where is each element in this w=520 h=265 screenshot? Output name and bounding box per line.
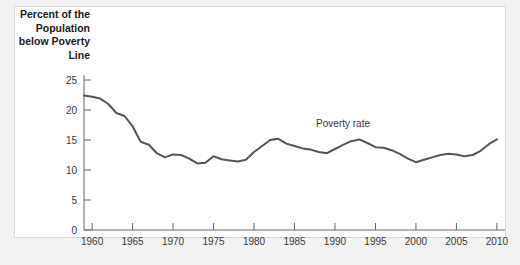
- x-tick-label: 2010: [486, 236, 509, 247]
- data-series: [84, 96, 497, 164]
- plot-area: 0510152025 19601965197019751980198519901…: [0, 0, 520, 265]
- y-tick-label: 25: [66, 75, 78, 86]
- x-tick-label: 1985: [283, 236, 306, 247]
- series-line: [84, 96, 497, 164]
- x-tick-label: 2000: [405, 236, 428, 247]
- x-tick-label: 1970: [162, 236, 185, 247]
- chart-annotations: Poverty rate: [316, 118, 370, 129]
- y-tick-label: 10: [66, 165, 78, 176]
- x-axis: 1960196519701975198019851990199520002005…: [81, 223, 508, 247]
- x-tick-label: 1965: [121, 236, 144, 247]
- y-tick-label: 15: [66, 135, 78, 146]
- y-axis: 0510152025: [66, 75, 91, 236]
- x-tick-label: 1975: [202, 236, 225, 247]
- line-chart-svg: 0510152025 19601965197019751980198519901…: [0, 0, 520, 265]
- y-tick-label: 20: [66, 105, 78, 116]
- poverty-rate-chart-figure: Percent of the Population below Poverty …: [0, 0, 520, 265]
- series-annotation-label: Poverty rate: [316, 118, 370, 129]
- x-tick-label: 1960: [81, 236, 104, 247]
- x-tick-label: 1995: [364, 236, 387, 247]
- x-tick-label: 1990: [324, 236, 347, 247]
- y-tick-label: 5: [71, 195, 77, 206]
- x-tick-label: 1980: [243, 236, 266, 247]
- y-tick-label: 0: [71, 225, 77, 236]
- x-tick-label: 2005: [445, 236, 468, 247]
